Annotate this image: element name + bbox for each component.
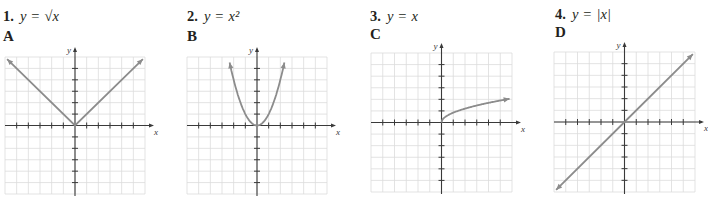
graph-letter-c: C	[370, 26, 381, 43]
item-number: 1.	[3, 8, 14, 24]
equation-operator: =	[393, 8, 411, 24]
y-axis-label: y	[616, 40, 621, 50]
y-axis-label: y	[248, 45, 253, 55]
x-axis-label: x	[335, 127, 340, 137]
graph-letter-a: A	[3, 28, 14, 45]
x-axis-label: x	[703, 123, 708, 133]
y-axis-arrow-icon	[623, 42, 627, 47]
y-axis-arrow-icon	[255, 47, 259, 52]
y-axis-arrow-icon	[440, 43, 444, 48]
y-axis-arrow-icon	[73, 47, 77, 52]
item-2-equation: 2.y=x²	[187, 8, 239, 25]
equation-operator: =	[26, 8, 44, 24]
item-4-equation: 4.y=|x|	[555, 6, 611, 23]
item-3-equation: 3.y=x	[370, 8, 418, 25]
equation-rhs: |x|	[597, 6, 611, 22]
graph-b: xy	[187, 57, 327, 194]
graph-letter-b: B	[187, 28, 197, 45]
equation-rhs: x	[412, 8, 418, 24]
equation-rhs: x²	[229, 8, 240, 24]
x-axis-label: x	[520, 124, 525, 134]
item-1-equation: 1.y=√x	[3, 8, 59, 25]
y-axis-label: y	[66, 45, 71, 55]
y-axis-label: y	[433, 41, 438, 51]
item-number: 4.	[555, 6, 566, 22]
x-axis-label: x	[153, 127, 158, 137]
equation-rhs: √x	[45, 8, 59, 24]
graph-d: xy	[554, 52, 695, 192]
graph-a: xy	[5, 57, 145, 194]
item-number: 3.	[370, 8, 381, 24]
item-number: 2.	[187, 8, 198, 24]
equation-operator: =	[578, 6, 596, 22]
graph-c: xy	[371, 53, 512, 192]
equation-operator: =	[210, 8, 228, 24]
graph-letter-d: D	[555, 24, 566, 41]
